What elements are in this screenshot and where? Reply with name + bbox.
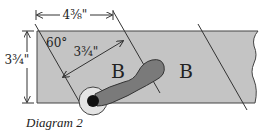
- region-label-b-1: B: [111, 60, 125, 82]
- top-dimension-label: 4⅜": [63, 8, 88, 22]
- left-dimension-label: 3¾": [5, 53, 30, 67]
- angle-label: 60°: [46, 36, 67, 50]
- region-label-b-2: B: [179, 60, 193, 82]
- pivot-dot: [87, 95, 99, 107]
- diagonal-dimension-label: 3¾": [74, 45, 99, 59]
- diagram-caption: Diagram 2: [25, 115, 83, 130]
- diagram: 4⅜" 3¾" 60° 3¾" B B Diagram 2: [0, 0, 271, 134]
